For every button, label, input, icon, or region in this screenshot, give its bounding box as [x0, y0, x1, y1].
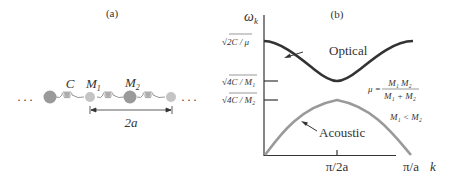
svg-text:M₁ M₂: M₁ M₂: [387, 78, 412, 88]
spring-constant-label: C: [66, 76, 75, 91]
svg-text:M₁ + M₂: M₁ + M₂: [383, 91, 416, 101]
spring-1: [56, 92, 84, 98]
reduced-mass-formula: μ = M₁ M₂ M₁ + M₂: [367, 78, 419, 101]
panel-a-label: (a): [106, 7, 119, 20]
svg-text:√4C / M₁: √4C / M₁: [222, 77, 255, 87]
x-tick-label-pi-a: π/a: [403, 159, 419, 174]
y-tick-label-4c-m2: √4C / M₂: [222, 93, 257, 105]
panel-b: (b) ωk k √2C / μ √4C / M₁ √4C / M₂ π/2a …: [222, 8, 436, 174]
svg-text:√4C / M₂: √4C / M₂: [222, 95, 255, 105]
spring-3: [137, 92, 165, 98]
spacing-dimension: [90, 106, 172, 114]
mass2-label: M2: [124, 75, 140, 92]
x-axis-label: k: [430, 159, 436, 174]
y-tick-label-2c-mu: √2C / μ: [222, 34, 252, 47]
dispersion-figure: (a) . . . . . . C M1 M2 2a (b): [0, 0, 449, 182]
light-mass-2: [166, 92, 176, 102]
acoustic-label: Acoustic: [319, 125, 365, 140]
optical-label: Optical: [329, 43, 368, 58]
mass1-label: M1: [85, 76, 101, 93]
x-tick-label-pi-2a: π/2a: [326, 159, 349, 174]
svg-text:√2C / μ: √2C / μ: [222, 37, 249, 47]
ellipsis-left: . . .: [18, 90, 33, 104]
panel-b-label: (b): [331, 8, 344, 21]
mass-condition: M₁ < M₂: [389, 112, 422, 122]
springs: [56, 92, 165, 98]
spacing-label: 2a: [125, 115, 139, 130]
ellipsis-right: . . .: [182, 90, 197, 104]
heavy-mass-2: [124, 91, 137, 104]
heavy-mass-1: [44, 91, 57, 104]
panel-a: (a) . . . . . . C M1 M2 2a: [18, 7, 197, 130]
y-axis-label: ωk: [244, 9, 259, 26]
light-mass-1: [85, 92, 95, 102]
acoustic-arrow: [301, 121, 317, 131]
spring-2: [97, 92, 124, 98]
svg-text:μ =: μ =: [367, 84, 381, 94]
y-tick-label-4c-m1: √4C / M₁: [222, 75, 257, 87]
